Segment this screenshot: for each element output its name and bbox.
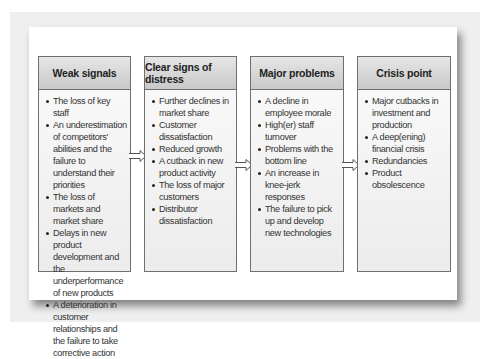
stage-weak-signals: Weak signals The loss of key staff An un… [38,56,131,272]
stage-items: Further declines in market share Custome… [145,90,236,227]
list-item: Major cutbacks in investment and product… [365,95,447,131]
list-item: A decline in employee morale [258,95,340,119]
stage-title: Major problems [251,57,343,90]
list-item: A deep(ening) financial crisis [365,131,447,155]
list-item: High(er) staff turnover [258,119,340,143]
stage-items: A decline in employee morale High(er) st… [251,90,343,239]
stage-clear-signs-of-distress: Clear signs of distress Further declines… [144,56,237,272]
list-item: Problems with the bottom line [258,143,340,167]
list-item: Customer dissatisfaction [152,119,233,143]
list-item: The loss of major customers [152,179,233,203]
list-item: Reduced growth [152,143,233,155]
stage-crisis-point: Crisis point Major cutbacks in investmen… [357,56,451,272]
list-item: Redundancies [365,155,447,167]
list-item: A deterioration in customer relationship… [46,299,127,359]
stage-title: Clear signs of distress [145,57,236,90]
stage-title: Crisis point [358,57,450,90]
list-item: The loss of markets and market share [46,191,127,227]
stage-items: Major cutbacks in investment and product… [358,90,450,191]
list-item: Further declines in market share [152,95,233,119]
list-item: Distributor dissatisfaction [152,203,233,227]
list-item: The loss of key staff [46,95,127,119]
stage-title: Weak signals [39,57,130,90]
list-item: An underestimation of competitors' abili… [46,119,127,191]
stage-major-problems: Major problems A decline in employee mor… [250,56,344,272]
list-item: An increase in knee-jerk responses [258,167,340,203]
list-item: Delays in new product development and th… [46,227,127,299]
list-item: The failure to pick up and develop new t… [258,203,340,239]
stage-items: The loss of key staff An underestimation… [39,90,130,359]
list-item: A cutback in new product activity [152,155,233,179]
list-item: Product obsolescence [365,167,447,191]
